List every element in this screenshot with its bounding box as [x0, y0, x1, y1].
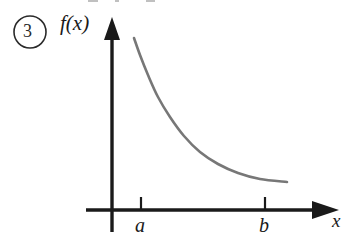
y-axis-arrowhead-icon: [104, 17, 120, 40]
x-axis-label: x: [332, 211, 340, 230]
problem-number-label: 3: [23, 22, 32, 40]
y-axis-label: f(x): [60, 13, 89, 34]
figure-container: 3 f(x) x a b: [0, 0, 355, 250]
function-curve: [134, 38, 287, 182]
figure-graphic: [0, 0, 355, 250]
tick-label-b: b: [259, 215, 269, 235]
tick-label-a: a: [135, 215, 145, 235]
